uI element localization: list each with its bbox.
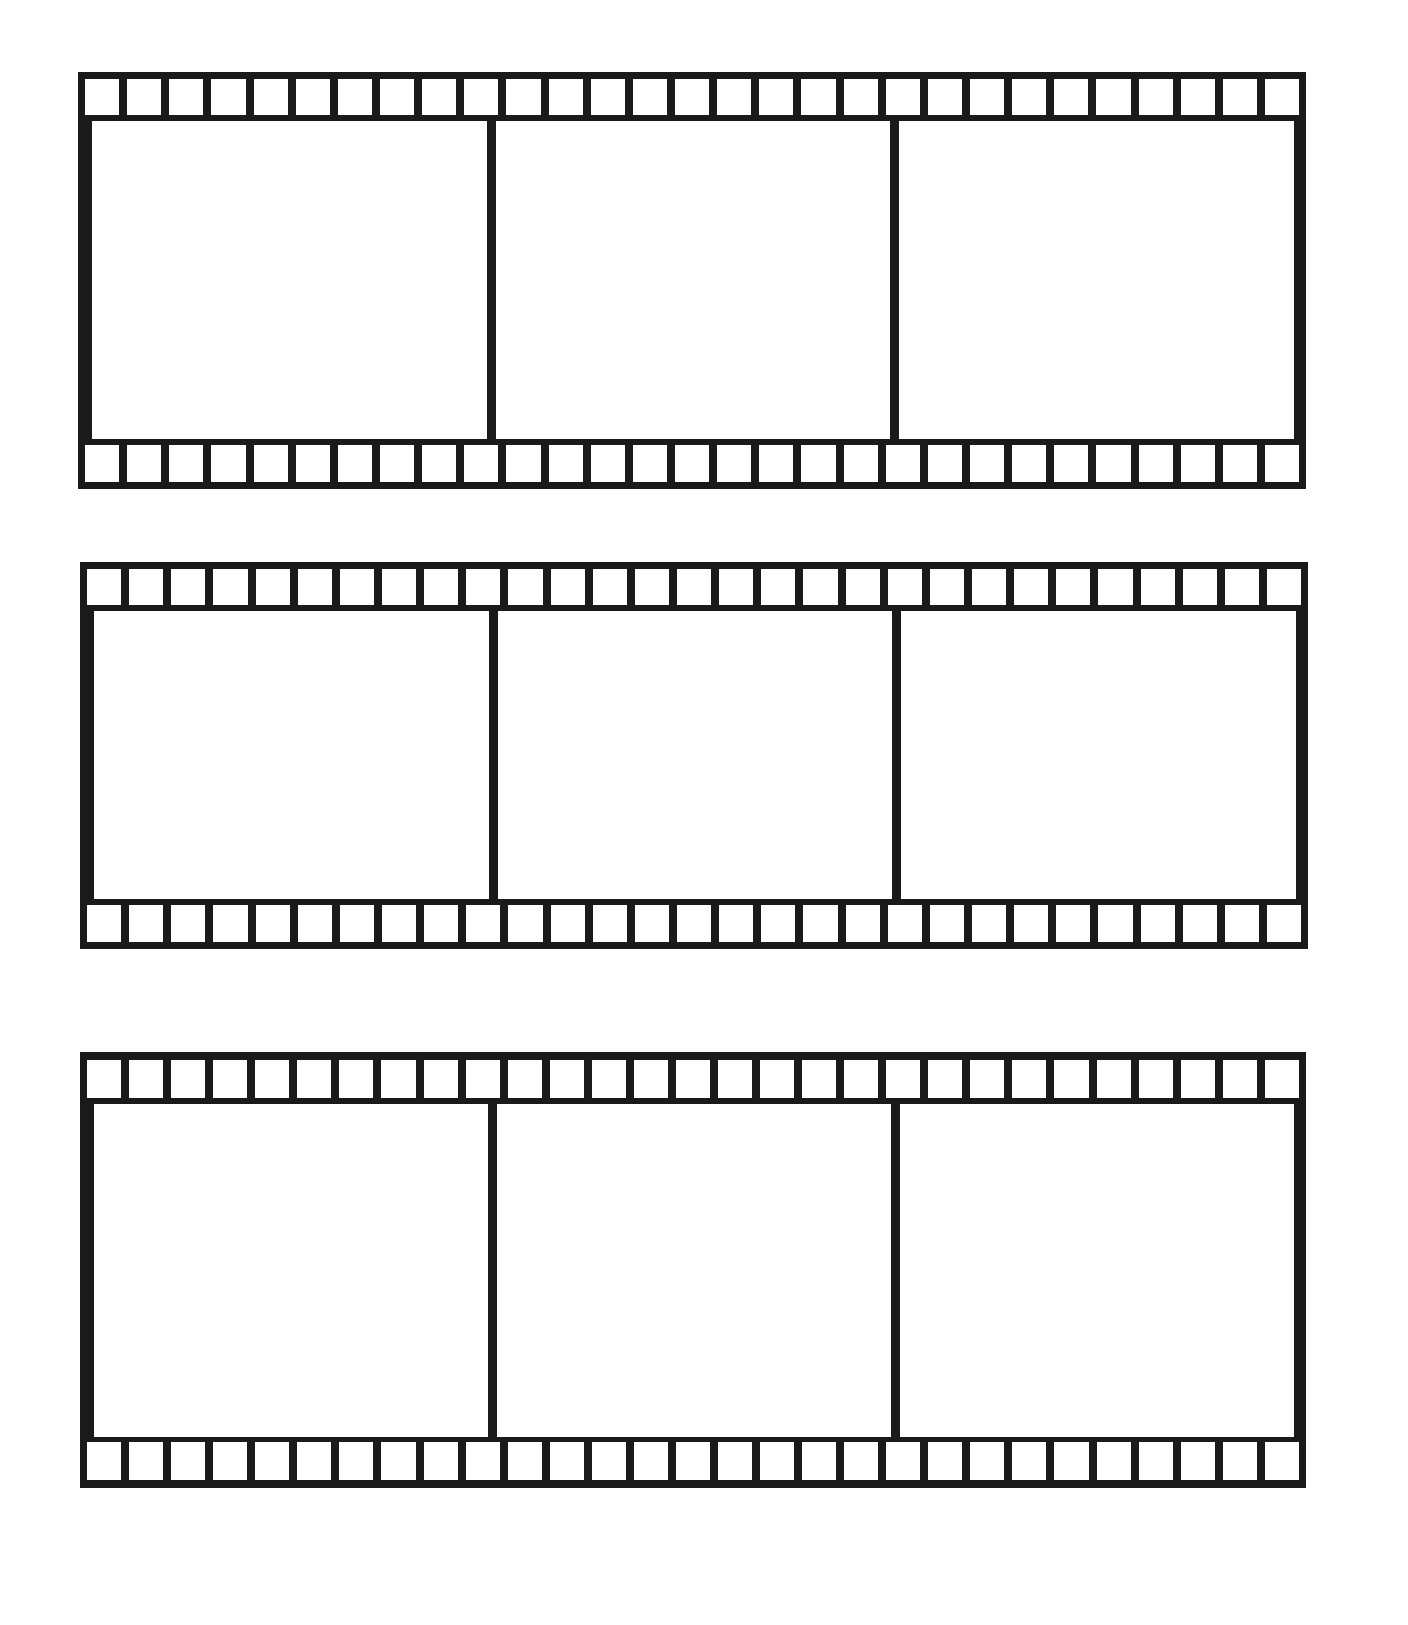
sprocket-hole — [551, 905, 585, 942]
sprocket-hole — [87, 905, 121, 942]
sprocket-hole — [930, 569, 964, 605]
sprocket-hole — [169, 79, 203, 115]
sprocket-hole — [1223, 445, 1257, 482]
sprocket-hole — [717, 79, 751, 115]
sprocket-hole — [803, 905, 837, 942]
sprocket-hole — [464, 79, 498, 115]
sprocket-hole — [801, 445, 835, 482]
frame-2[interactable] — [498, 611, 893, 899]
sprocket-hole — [1096, 79, 1130, 115]
sprocket-hole — [928, 1060, 962, 1098]
sprocket-hole — [676, 1442, 710, 1480]
sprocket-hole — [129, 1442, 163, 1480]
film-strip-2 — [80, 562, 1308, 949]
frame-row — [92, 121, 1294, 439]
sprocket-hole — [1056, 569, 1090, 605]
sprocket-hole — [591, 79, 625, 115]
sprocket-hole — [255, 1442, 289, 1480]
sprocket-hole — [972, 569, 1006, 605]
sprocket-hole — [802, 1442, 836, 1480]
sprocket-hole — [802, 1060, 836, 1098]
sprocket-hole — [1141, 569, 1175, 605]
sprocket-hole — [888, 905, 922, 942]
sprocket-hole — [970, 445, 1004, 482]
sprocket-hole — [297, 1442, 331, 1480]
sprocket-hole — [381, 1442, 415, 1480]
sprocket-hole — [549, 445, 583, 482]
sprocket-hole — [171, 905, 205, 942]
sprocket-hole — [928, 79, 962, 115]
sprocket-hole — [1098, 905, 1132, 942]
sprocket-row-bottom — [78, 445, 1306, 482]
sprocket-hole — [972, 905, 1006, 942]
sprocket-hole — [506, 79, 540, 115]
sprocket-hole — [171, 1442, 205, 1480]
sprocket-hole — [760, 1060, 794, 1098]
sprocket-hole — [719, 905, 753, 942]
frame-3[interactable] — [901, 611, 1296, 899]
sprocket-hole — [970, 79, 1004, 115]
sprocket-hole — [1139, 1060, 1173, 1098]
sprocket-hole — [846, 569, 880, 605]
sprocket-hole — [1012, 79, 1046, 115]
sprocket-hole — [85, 445, 119, 482]
sprocket-hole — [844, 79, 878, 115]
sprocket-hole — [296, 445, 330, 482]
sprocket-hole — [886, 445, 920, 482]
sprocket-hole — [677, 569, 711, 605]
sprocket-hole — [424, 1442, 458, 1480]
film-strip-3 — [80, 1052, 1306, 1488]
frame-2[interactable] — [497, 1104, 891, 1437]
sprocket-hole — [761, 905, 795, 942]
sprocket-hole — [339, 1442, 373, 1480]
sprocket-hole — [550, 1060, 584, 1098]
sprocket-hole — [888, 569, 922, 605]
sprocket-hole — [508, 1060, 542, 1098]
sprocket-hole — [677, 905, 711, 942]
sprocket-hole — [970, 1060, 1004, 1098]
sprocket-hole — [1181, 1060, 1215, 1098]
frame-1[interactable] — [94, 1104, 488, 1437]
sprocket-hole — [633, 445, 667, 482]
sprocket-hole — [382, 569, 416, 605]
frame-1[interactable] — [94, 611, 489, 899]
sprocket-row-bottom — [80, 1442, 1306, 1480]
sprocket-hole — [1223, 1060, 1257, 1098]
sprocket-hole — [1141, 905, 1175, 942]
sprocket-hole — [213, 569, 247, 605]
sprocket-hole — [298, 569, 332, 605]
sprocket-hole — [466, 905, 500, 942]
sprocket-hole — [424, 569, 458, 605]
sprocket-hole — [1139, 1442, 1173, 1480]
sprocket-hole — [171, 569, 205, 605]
sprocket-hole — [127, 79, 161, 115]
sprocket-hole — [297, 1060, 331, 1098]
frame-2[interactable] — [496, 121, 891, 439]
sprocket-hole — [930, 905, 964, 942]
sprocket-hole — [298, 905, 332, 942]
sprocket-hole — [129, 1060, 163, 1098]
sprocket-hole — [85, 79, 119, 115]
sprocket-hole — [254, 445, 288, 482]
sprocket-hole — [591, 445, 625, 482]
sprocket-hole — [928, 1442, 962, 1480]
sprocket-hole — [213, 1060, 247, 1098]
frame-3[interactable] — [899, 121, 1294, 439]
film-strip-1 — [78, 72, 1306, 489]
sprocket-hole — [759, 445, 793, 482]
sprocket-hole — [886, 1060, 920, 1098]
sprocket-hole — [970, 1442, 1004, 1480]
sprocket-hole — [718, 1060, 752, 1098]
sprocket-hole — [424, 905, 458, 942]
sprocket-hole — [127, 445, 161, 482]
sprocket-hole — [464, 445, 498, 482]
sprocket-hole — [1054, 445, 1088, 482]
sprocket-hole — [466, 569, 500, 605]
sprocket-hole — [675, 79, 709, 115]
frame-3[interactable] — [900, 1104, 1294, 1437]
sprocket-hole — [340, 905, 374, 942]
frame-1[interactable] — [92, 121, 487, 439]
sprocket-hole — [1265, 1060, 1299, 1098]
sprocket-hole — [1225, 905, 1259, 942]
sprocket-hole — [508, 1442, 542, 1480]
